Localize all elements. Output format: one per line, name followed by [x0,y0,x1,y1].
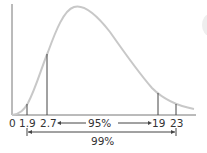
faint-edge-shape [202,14,207,36]
interval-95-label: 95% [88,117,111,129]
density-curve [12,6,194,115]
arrowhead-left-icon [28,130,32,134]
tick-label-1-9: 1.9 [19,117,36,129]
tick-label-23: 23 [170,117,183,129]
tick-label-0: 0 [9,117,16,129]
arrowhead-right-icon [171,130,175,134]
tick-label-19: 19 [152,117,165,129]
tick-label-2-7: 2.7 [40,117,57,129]
interval-99-label: 99% [91,135,114,147]
arrowhead-left-icon [57,121,61,125]
chi-square-chart: 0 1.9 2.7 19 23 95% 99% [0,0,207,153]
